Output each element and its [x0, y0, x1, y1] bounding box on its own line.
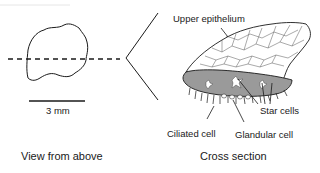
caption-view-from-above: View from above [21, 151, 103, 162]
label-star-cells: Star cells [260, 106, 299, 116]
label-glandular-cell: Glandular cell [235, 130, 293, 140]
diagram-canvas [0, 0, 320, 173]
projection-line-lower [126, 58, 158, 100]
cross-section-illustration [183, 23, 310, 105]
scale-bar-label: 3 mm [46, 106, 70, 116]
label-upper-epithelium: Upper epithelium [173, 14, 245, 24]
projection-line-upper [126, 13, 158, 58]
label-ciliated-cell: Ciliated cell [167, 129, 216, 139]
organism-outline-top-view [27, 24, 88, 80]
caption-cross-section: Cross section [200, 151, 267, 162]
